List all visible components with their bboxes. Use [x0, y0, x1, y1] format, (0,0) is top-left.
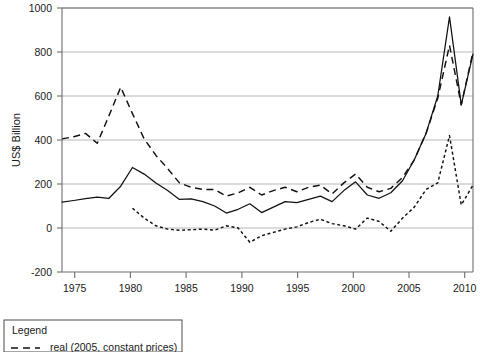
x-tick-label: 1990	[230, 282, 254, 294]
x-tick-label: 2010	[453, 282, 477, 294]
y-tick-label: 600	[34, 90, 52, 102]
y-tick-marks	[57, 8, 62, 272]
x-tick-marks	[75, 272, 465, 278]
gridlines	[62, 8, 473, 228]
x-tick-label: 1985	[174, 282, 198, 294]
x-tick-label: 2005	[397, 282, 421, 294]
y-tick-label: 0	[46, 222, 52, 234]
y-tick-label: 800	[34, 46, 52, 58]
x-tick-label: 1995	[286, 282, 310, 294]
x-tick-label: 1975	[63, 282, 87, 294]
legend-title: Legend	[12, 324, 47, 336]
y-tick-label: -200	[31, 266, 52, 278]
x-tick-label: 2000	[342, 282, 366, 294]
y-tick-labels: 1000 800 600 400 200 0 -200	[29, 2, 53, 278]
y-tick-label: 400	[34, 134, 52, 146]
y-tick-label: 200	[34, 178, 52, 190]
x-tick-labels: 1975 1980 1985 1990 1995 2000 2005 2010	[63, 282, 477, 294]
y-tick-label: 1000	[29, 2, 53, 14]
gross-investment-line-chart: 1000 800 600 400 200 0 -200 1975 1980 19…	[0, 0, 488, 352]
y-axis-title: US$ Billion	[10, 113, 22, 167]
legend-entry-label: real (2005, constant prices)	[50, 341, 177, 352]
x-tick-label: 1980	[119, 282, 143, 294]
legend: Legend real (2005, constant prices)	[4, 320, 182, 352]
series-real-2005-constant-prices	[62, 45, 473, 196]
series-group	[62, 17, 473, 243]
